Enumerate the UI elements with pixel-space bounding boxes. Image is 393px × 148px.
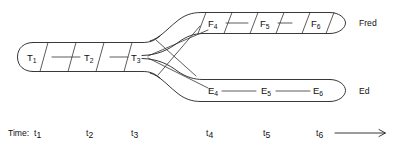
person-label-ed: Ed bbox=[359, 86, 370, 96]
time-tick-5: t5 bbox=[263, 128, 270, 140]
ed-stage-label-5: E5 bbox=[261, 85, 271, 97]
time-tick-3: t3 bbox=[131, 128, 138, 140]
ed-stage-label-6: E6 bbox=[313, 85, 323, 97]
time-tick-2: t2 bbox=[86, 128, 93, 140]
ed-stage-label-4: E4 bbox=[208, 85, 218, 97]
trunk-stage-label-1: T1 bbox=[27, 52, 37, 64]
time-axis-arrow-icon bbox=[335, 130, 386, 137]
fred-stage-label-6: F6 bbox=[311, 18, 321, 30]
diagram-svg: T1 T2 T3 F4 F5 F6 E4 E5 E6 Fred Ed Time:… bbox=[0, 0, 393, 148]
time-tick-4: t4 bbox=[206, 128, 213, 140]
time-axis-caption: Time: bbox=[8, 128, 29, 138]
time-tick-1: t1 bbox=[34, 128, 41, 140]
fred-tube-outline bbox=[330, 13, 346, 34]
ed-tube-outline bbox=[330, 80, 346, 102]
trunk-stage-label-2: T2 bbox=[84, 52, 94, 64]
split-crossing-lines bbox=[142, 13, 330, 102]
fission-diagram-canvas: T1 T2 T3 F4 F5 F6 E4 E5 E6 Fred Ed Time:… bbox=[0, 0, 393, 148]
trunk-stage-label-3: T3 bbox=[131, 52, 141, 64]
fred-stage-label-4: F4 bbox=[208, 18, 218, 30]
time-tick-6: t6 bbox=[316, 128, 323, 140]
fred-stage-label-5: F5 bbox=[260, 18, 270, 30]
person-label-fred: Fred bbox=[359, 18, 377, 28]
